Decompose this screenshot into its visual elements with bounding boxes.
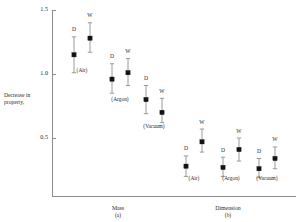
- data-point-marker: [257, 167, 261, 171]
- x-axis-section-caption: (b): [198, 213, 258, 219]
- series-label-w: W: [120, 49, 136, 55]
- series-label-w: W: [267, 137, 283, 143]
- chart-plot-area: [0, 0, 298, 222]
- y-axis-tick-label: 1.0: [22, 70, 48, 77]
- series-label-w: W: [82, 13, 98, 19]
- y-axis-title: Decrease in property,: [4, 92, 30, 106]
- data-point-marker: [88, 36, 92, 40]
- series-label-d: D: [104, 54, 120, 60]
- data-point-marker: [126, 71, 130, 75]
- data-point-marker: [184, 164, 188, 168]
- data-point-marker: [273, 156, 277, 160]
- data-point-marker: [110, 77, 114, 81]
- x-axis-section-title: Dimension: [198, 205, 258, 211]
- data-point-marker: [160, 110, 164, 114]
- data-point-marker: [200, 140, 204, 144]
- y-axis-tick-label: 0.5: [22, 134, 48, 141]
- x-axis-section-title: Mass: [88, 205, 148, 211]
- group-label: (Vacuum): [245, 176, 289, 182]
- series-label-w: W: [231, 129, 247, 135]
- group-label: (Argon): [98, 97, 142, 103]
- y-axis-tick-label: 1.5: [22, 6, 48, 13]
- series-label-d: D: [66, 27, 82, 33]
- series-label-d: D: [215, 148, 231, 154]
- data-point-marker: [72, 53, 76, 57]
- y-axis-title-line-1: Decrease in: [4, 92, 30, 99]
- series-label-d: D: [251, 149, 267, 155]
- x-axis-section-caption: (a): [88, 213, 148, 219]
- data-point-marker: [237, 147, 241, 151]
- series-label-d: D: [138, 76, 154, 82]
- data-point-marker: [144, 98, 148, 102]
- data-point-marker: [221, 165, 225, 169]
- series-label-d: D: [178, 146, 194, 152]
- y-axis-title-line-2: property,: [4, 99, 30, 106]
- series-label-w: W: [154, 89, 170, 95]
- group-label: (Vacuum): [132, 124, 176, 130]
- chart-container: 1.51.00.5DW(Air)DW(Argon)DW(Vacuum)Mass(…: [0, 0, 298, 222]
- group-label: (Air): [60, 68, 104, 74]
- series-label-w: W: [194, 120, 210, 126]
